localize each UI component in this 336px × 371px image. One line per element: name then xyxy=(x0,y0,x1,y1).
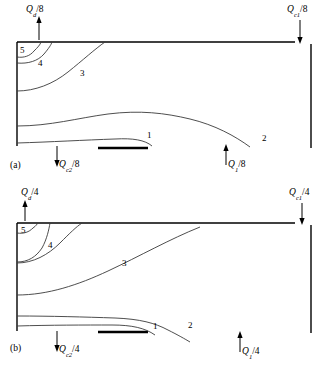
panel-b: 5 4 3 1 2 Qd/4 Qc1/4 Qc2/4 Q1/4 (b) xyxy=(0,185,336,371)
panel-b-canvas: 5 4 3 1 2 xyxy=(0,185,336,371)
streamline-label-4: 4 xyxy=(48,240,53,250)
panel-a-canvas: 5 4 3 1 2 xyxy=(0,0,336,185)
streamline-2 xyxy=(17,316,190,342)
flow-label-qd-top-left: Qd/8 xyxy=(26,4,44,14)
streamline-label-2: 2 xyxy=(188,320,193,330)
arrow-qd-up xyxy=(36,16,41,40)
streamline-label-5: 5 xyxy=(21,225,26,235)
streamline-3 xyxy=(17,42,105,91)
figure-streamline-panels: 5 4 3 1 2 Qd/8 Qc1/8 Qc2/8 Q1/8 (a) xyxy=(0,0,336,371)
streamline-1 xyxy=(17,139,152,146)
streamline-label-1: 1 xyxy=(153,321,158,331)
streamline-label-5: 5 xyxy=(20,45,25,55)
streamline-1 xyxy=(17,325,155,335)
flow-label-qc1-top-right: Qc1/4 xyxy=(289,187,310,197)
arrow-qd-up xyxy=(22,200,27,221)
panel-tag-b: (b) xyxy=(10,343,21,353)
streamline-label-3: 3 xyxy=(80,68,85,78)
streamline-label-2: 2 xyxy=(262,133,267,143)
arrow-qc1-down xyxy=(297,20,302,44)
arrow-qc1-down xyxy=(299,203,304,225)
panel-tag-a: (a) xyxy=(10,160,21,170)
flow-label-q1-bottom-right: Q1/8 xyxy=(228,159,246,169)
flow-label-qc2-bottom-left: Qc2/4 xyxy=(59,344,80,354)
streamline-3 xyxy=(17,227,200,295)
streamline-label-4: 4 xyxy=(38,58,43,68)
flow-label-qd-top-left: Qd/4 xyxy=(21,187,39,197)
flow-label-qc1-top-right: Qc1/8 xyxy=(287,4,308,14)
streamline-label-1: 1 xyxy=(147,130,152,140)
flow-label-q1-bottom-right: Q1/4 xyxy=(242,346,260,356)
flow-label-qc2-bottom-left: Qc2/8 xyxy=(59,159,80,169)
panel-a: 5 4 3 1 2 Qd/8 Qc1/8 Qc2/8 Q1/8 (a) xyxy=(0,0,336,185)
streamline-label-3: 3 xyxy=(122,258,127,268)
